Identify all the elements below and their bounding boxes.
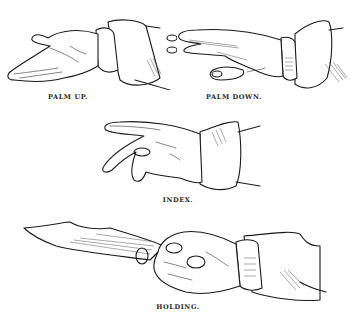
- caption-palm-up: PALM UP.: [48, 93, 88, 101]
- holding-illustration: [0, 212, 354, 302]
- palm-down-illustration: [177, 8, 354, 90]
- caption-palm-down: PALM DOWN.: [206, 93, 262, 101]
- caption-index: INDEX.: [163, 196, 193, 204]
- palm-up-illustration: [0, 8, 177, 90]
- index-illustration: [100, 112, 280, 192]
- caption-holding: HOLDING.: [156, 303, 199, 311]
